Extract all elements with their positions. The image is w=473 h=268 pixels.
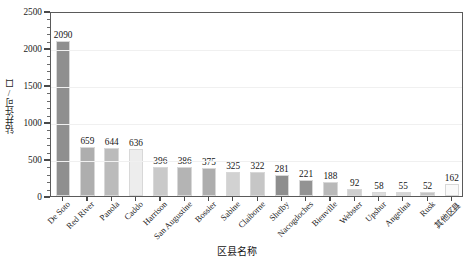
bar-item[interactable]: 2090 [56,41,71,196]
bar[interactable] [396,192,411,196]
y-tick-label: 500 [0,155,42,165]
gridline [51,50,462,51]
bar[interactable] [323,182,338,196]
bar[interactable] [80,147,95,196]
bar[interactable] [275,175,290,196]
bar-item[interactable]: 396 [153,167,168,196]
bar[interactable] [250,172,265,196]
gridline [51,87,462,88]
bar-value-label: 644 [105,137,119,147]
bar-value-label: 322 [251,161,265,171]
bar[interactable] [347,189,362,196]
bar[interactable] [420,192,435,196]
bar-item[interactable]: 162 [445,184,460,196]
bar-item[interactable]: 281 [275,175,290,196]
bar[interactable] [177,167,192,196]
bar[interactable] [372,192,387,196]
bar-item[interactable]: 636 [129,149,144,196]
bar[interactable] [129,149,144,196]
bar[interactable] [226,172,241,196]
bar[interactable] [104,148,119,196]
bar-item[interactable]: 221 [299,180,314,196]
bar-value-label: 375 [202,157,216,167]
bar-item[interactable]: 58 [372,192,387,196]
y-tick-label: 1000 [0,118,42,128]
bar-value-label: 2090 [54,30,73,40]
bar-value-label: 221 [299,169,313,179]
bar[interactable] [202,168,217,196]
y-tick-label: 0 [0,192,42,202]
bar[interactable] [153,167,168,196]
bar-item[interactable]: 375 [202,168,217,196]
bar-value-label: 58 [374,181,383,191]
gridline [51,124,462,125]
bar-item[interactable]: 92 [347,189,362,196]
bar-chart: 钻井许可/口 05001000150020002500 209065964463… [0,0,473,268]
bar-item[interactable]: 322 [250,172,265,196]
bar-value-label: 162 [445,173,459,183]
bar-value-label: 92 [350,178,359,188]
x-axis-title: 区县名称 [0,243,473,258]
bar-value-label: 281 [275,164,289,174]
bar-item[interactable]: 52 [420,192,435,196]
bar[interactable] [445,184,460,196]
bar-value-label: 52 [423,181,432,191]
plot-area: 2090659644636396386375325322281221188925… [50,12,463,197]
bar-value-label: 636 [129,138,143,148]
bar-value-label: 325 [226,161,240,171]
y-tick-label: 1500 [0,81,42,91]
bar[interactable] [56,41,71,196]
bar-series: 2090659644636396386375325322281221188925… [51,13,462,196]
bar-item[interactable]: 659 [80,147,95,196]
y-tick-label: 2000 [0,44,42,54]
bar-item[interactable]: 188 [323,182,338,196]
bar-item[interactable]: 644 [104,148,119,196]
bar-item[interactable]: 325 [226,172,241,196]
bar-value-label: 659 [80,136,94,146]
gridline [51,161,462,162]
bar[interactable] [299,180,314,196]
bar-value-label: 55 [399,181,408,191]
y-tick-label: 2500 [0,7,42,17]
bar-value-label: 188 [323,171,337,181]
bar-item[interactable]: 55 [396,192,411,196]
bar-item[interactable]: 386 [177,167,192,196]
